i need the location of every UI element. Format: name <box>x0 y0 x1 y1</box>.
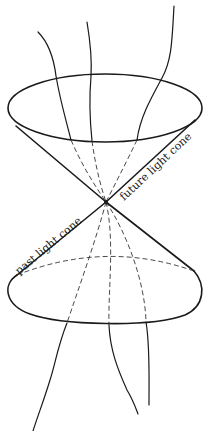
future-cone-rim <box>8 74 202 142</box>
worldline-1-past <box>33 323 67 431</box>
worldline-3-future <box>137 6 174 140</box>
worldline-2-inner-past <box>106 202 111 325</box>
past-cone-rim-back <box>17 256 194 275</box>
future-cone-left-edge <box>16 126 106 202</box>
event-point <box>104 200 108 204</box>
worldline-3-inner-past <box>106 202 146 322</box>
past-cone-rim-front <box>8 271 202 324</box>
past-light-cone-label: past light cone <box>13 214 85 277</box>
past-cone-right-edge <box>106 202 194 271</box>
worldline-2-future <box>87 22 92 141</box>
light-cone-diagram: future light cone past light cone <box>0 0 213 431</box>
worldline-1-future <box>38 32 71 140</box>
worldline-2-past <box>109 325 138 414</box>
worldline-3-past <box>146 322 149 405</box>
worldline-1-inner-future <box>71 140 106 202</box>
